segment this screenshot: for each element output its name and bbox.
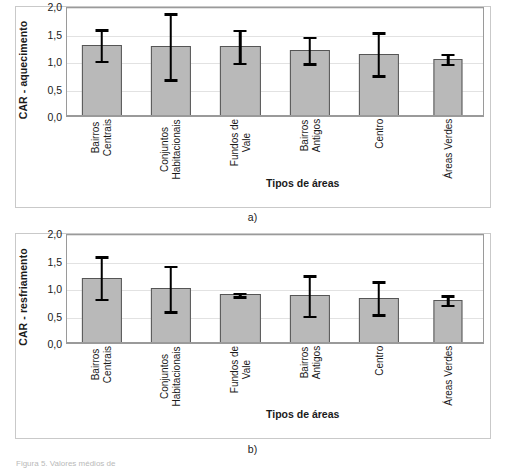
error-bar-cap-lower [95,61,108,64]
category-label-line: Centrais [101,119,113,156]
bar-slot [275,235,344,343]
plot-area-a [66,7,484,117]
category-label-line: Bairros [299,119,311,152]
category-label-line: Áreas Verdes [443,119,455,179]
y-axis-ticks-b: 0,00,51,01,52,0 [34,234,64,360]
bar-slot [206,8,275,116]
category-label-line: Habitacionais [171,119,183,179]
bar-slot [67,235,136,343]
y-tick-label: 0,5 [47,311,62,323]
error-bar-cap-upper [372,281,385,284]
error-bar-cap-lower [372,314,385,317]
error-bar-line [378,33,381,76]
error-bar-line [170,14,173,80]
error-bar-cap-upper [442,295,455,298]
y-tick-label: 1,5 [47,29,62,41]
y-axis-title-a: CAR - aquecimento [14,7,32,133]
error-bar-cap-lower [164,79,177,82]
y-axis-title-b: CAR - resfriamento [14,234,32,360]
bar-slot [67,8,136,116]
category-label-line: Conjuntos [159,119,171,179]
figure-root: CAR - aquecimento 0,00,51,01,52,0 Bairro… [0,0,505,468]
x-axis-title-b: Tipos de áreas [266,408,339,420]
category-label-cell: Centro [345,119,415,195]
bar [434,59,463,116]
category-label-cell: BairrosCentrais [66,346,136,422]
bar [220,294,260,343]
error-bar-cap-lower [95,299,108,302]
figure-caption: Figura 5. Valores médios de [16,459,496,468]
category-label-cell: ConjuntosHabitacionais [136,346,206,422]
category-label-line: Antigos [310,346,322,379]
category-label-cell: ConjuntosHabitacionais [136,119,206,195]
error-bar-cap-lower [234,63,247,66]
y-axis-ticks-a: 0,00,51,01,52,0 [34,7,64,133]
bar-slot [136,235,205,343]
error-bar-cap-lower [234,296,247,299]
category-label-cell: Fundos deVale [205,119,275,195]
y-tick-label: 1,0 [47,56,62,68]
category-label-line: Fundos de [229,119,241,166]
category-label-cell: Áreas Verdes [414,119,484,195]
error-bar-cap-upper [442,54,455,57]
error-bar-cap-lower [303,316,316,319]
error-bar-cap-lower [372,75,385,78]
y-tick-label: 1,5 [47,256,62,268]
error-bar-line [100,257,103,300]
chart-panel-b: CAR - resfriamento 0,00,51,01,52,0 Bairr… [15,233,491,439]
category-label-line: Centro [374,346,386,376]
category-label-line: Bairros [299,346,311,379]
error-bar-line [170,267,173,312]
category-label-cell: Centro [345,346,415,422]
category-label-line: Conjuntos [159,346,171,406]
error-bar-cap-lower [442,305,455,308]
error-bar-line [308,38,311,64]
error-bar-cap-lower [303,63,316,66]
chart-panel-a: CAR - aquecimento 0,00,51,01,52,0 Bairro… [15,6,491,208]
error-bar-cap-upper [164,266,177,269]
x-axis-line-b [67,342,483,343]
bar-slot [206,235,275,343]
category-label-line: Centrais [101,346,113,383]
y-tick-label: 2,0 [47,1,62,13]
y-tick-label: 2,0 [47,228,62,240]
y-tick-label: 0,0 [47,338,62,350]
category-label-line: Bairros [89,346,101,383]
bar-series-b [67,235,483,343]
category-label-line: Habitacionais [171,346,183,406]
error-bar-cap-upper [303,275,316,278]
error-bar-cap-upper [95,29,108,32]
error-bar-cap-upper [372,32,385,35]
category-label-line: Centro [374,119,386,149]
error-bar-cap-upper [303,37,316,40]
category-label-line: Bairros [89,119,101,156]
error-bar-cap-upper [95,256,108,259]
y-tick-label: 0,0 [47,111,62,123]
category-label-cell: Fundos deVale [205,346,275,422]
error-bar-line [239,31,242,64]
bar-slot [414,8,483,116]
error-bar-cap-lower [442,64,455,67]
y-tick-label: 1,0 [47,283,62,295]
bar-slot [136,8,205,116]
error-bar-line [100,30,103,62]
x-axis-title-a: Tipos de áreas [266,177,339,189]
error-bar-cap-lower [164,311,177,314]
error-bar-cap-upper [234,293,247,296]
panel-label-b: b) [0,443,505,455]
error-bar-line [378,282,381,315]
bar-slot [344,8,413,116]
category-label-line: Vale [240,346,252,393]
bar-slot [414,235,483,343]
category-label-cell: BairrosCentrais [66,119,136,195]
plot-area-b [66,234,484,344]
category-label-cell: Áreas Verdes [414,346,484,422]
x-axis-line-a [67,115,483,116]
category-label-line: Vale [240,119,252,166]
category-label-line: Áreas Verdes [443,346,455,406]
bar-slot [275,8,344,116]
bar-series-a [67,8,483,116]
category-label-line: Antigos [310,119,322,152]
bar-slot [344,235,413,343]
error-bar-line [308,276,311,317]
